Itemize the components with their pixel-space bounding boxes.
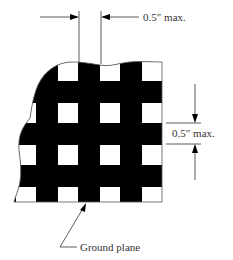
arrow-up-icon: [192, 144, 198, 153]
ground-plane-label: Ground plane: [80, 241, 140, 253]
ground-plane-diagram: 0.5″ max. 0.5″ max. Ground plane: [0, 0, 233, 260]
arrow-down-icon: [192, 114, 198, 123]
vertical-dimension-label: 0.5″ max.: [172, 127, 215, 139]
horizontal-dimension-label: 0.5″ max.: [143, 11, 186, 23]
leader-arrow-icon: [80, 203, 86, 212]
horizontal-dimension: [40, 11, 139, 64]
arrow-left-icon: [101, 14, 110, 20]
ground-plane-mesh: [0, 55, 170, 205]
arrow-right-icon: [70, 14, 79, 20]
